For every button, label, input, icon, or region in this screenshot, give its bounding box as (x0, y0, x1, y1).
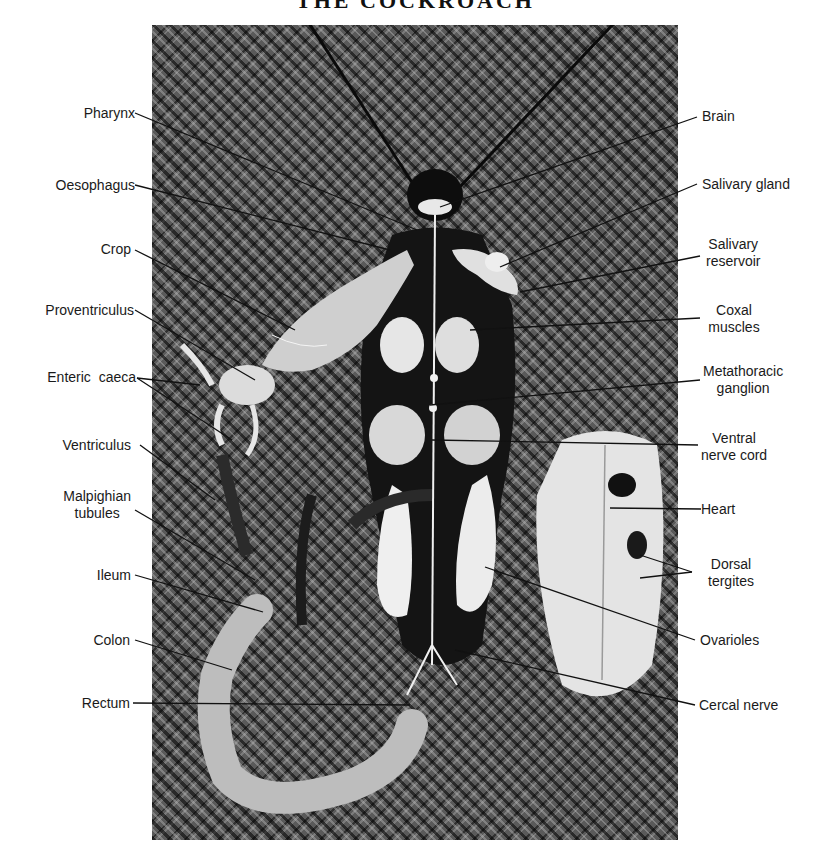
label-salivary-reservoir-line2: reservoir (706, 253, 760, 270)
label-cercal-nerve: Cercal nerve (699, 697, 778, 714)
label-malpighian-line2: tubules (63, 505, 131, 522)
label-crop: Crop (101, 241, 131, 258)
label-coxal-line1: Coxal (704, 302, 764, 319)
label-dorsal-line1: Dorsal (701, 556, 761, 573)
label-pharynx: Pharynx (84, 105, 135, 122)
label-ventral-line2: nerve cord (701, 447, 767, 464)
label-dorsal-line2: tergites (701, 573, 761, 590)
label-proventriculus: Proventriculus (45, 302, 134, 319)
label-ventral-nerve-cord: Ventral nerve cord (701, 430, 767, 464)
label-metathoracic-ganglion: Metathoracic ganglion (703, 363, 783, 397)
label-metathoracic-line2: ganglion (703, 380, 783, 397)
label-malpighian-tubules: Malpighian tubules (63, 488, 131, 522)
label-heart: Heart (701, 501, 735, 518)
label-malpighian-line1: Malpighian (63, 488, 131, 505)
label-oesophagus: Oesophagus (56, 177, 135, 194)
label-enteric-caeca: Enteric caeca (47, 369, 136, 386)
label-metathoracic-line1: Metathoracic (703, 363, 783, 380)
label-rectum: Rectum (82, 695, 130, 712)
label-brain: Brain (702, 108, 735, 125)
label-ventriculus: Ventriculus (63, 437, 131, 454)
specimen-illustration (152, 25, 678, 840)
label-ventral-line1: Ventral (701, 430, 767, 447)
label-dorsal-tergites: Dorsal tergites (701, 556, 761, 590)
label-coxal-muscles: Coxal muscles (704, 302, 764, 336)
label-colon: Colon (93, 632, 130, 649)
specimen-photo (152, 25, 678, 840)
page-header: THE COCKROACH (0, 0, 831, 14)
label-ileum: Ileum (97, 567, 131, 584)
label-salivary-reservoir-line1: Salivary (706, 236, 760, 253)
label-salivary-reservoir: Salivary reservoir (706, 236, 760, 270)
label-coxal-line2: muscles (704, 319, 764, 336)
label-salivary-gland: Salivary gland (702, 176, 790, 193)
label-ovarioles: Ovarioles (700, 632, 759, 649)
